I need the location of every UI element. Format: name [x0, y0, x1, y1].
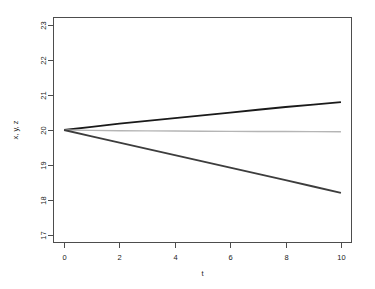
x-tick-label: 2	[117, 253, 121, 262]
y-tick-label: 20	[39, 126, 48, 134]
plot-container: 17181920212223 0246810 x, y, z t	[0, 0, 375, 289]
x-tick-label: 4	[173, 253, 177, 262]
y-tick-label: 17	[39, 231, 48, 239]
chart-background	[0, 0, 375, 289]
y-tick-label: 22	[39, 56, 48, 64]
y-tick-label: 18	[39, 196, 48, 204]
x-tick-label: 10	[337, 253, 345, 262]
y-tick-label: 19	[39, 161, 48, 169]
x-tick-label: 6	[228, 253, 232, 262]
x-tick-label: 0	[62, 253, 66, 262]
x-tick-label: 8	[284, 253, 288, 262]
y-tick-label: 21	[39, 91, 48, 99]
y-tick-label: 23	[39, 21, 48, 29]
y-axis-title: x, y, z	[11, 120, 20, 139]
line-chart: 17181920212223 0246810 x, y, z t	[0, 0, 375, 289]
